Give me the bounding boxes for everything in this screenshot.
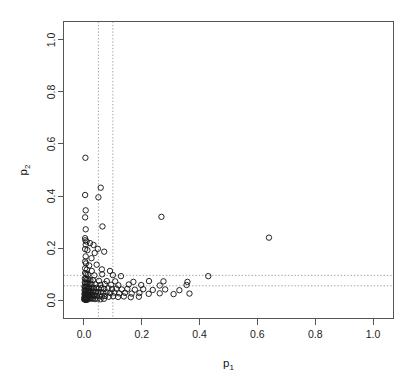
data-point (129, 291, 134, 296)
data-point (92, 250, 97, 255)
data-point (83, 208, 88, 213)
data-point (118, 273, 123, 278)
y-tick-label: 0.0 (46, 293, 58, 308)
y-tick-label: 0.8 (46, 84, 58, 99)
data-point (128, 295, 133, 300)
x-axis-title-subscript: 1 (229, 363, 234, 372)
data-point (83, 254, 88, 259)
data-point (171, 291, 176, 296)
data-point (266, 235, 271, 240)
data-point (136, 294, 141, 299)
data-point (187, 291, 192, 296)
data-point (82, 192, 87, 197)
x-tick-label: 0.6 (250, 328, 265, 340)
x-axis: 0.00.20.40.60.81.0 (77, 319, 381, 340)
y-axis-title: p2 (17, 164, 32, 175)
data-point (184, 282, 189, 287)
scatter-plot-figure: 0.00.20.40.60.81.0 0.00.20.40.60.81.0 p1… (0, 0, 420, 385)
data-points-group (82, 155, 272, 302)
data-point (146, 278, 151, 283)
data-point (102, 249, 107, 254)
data-point (83, 155, 88, 160)
plot-canvas: 0.00.20.40.60.81.0 0.00.20.40.60.81.0 p1… (0, 0, 420, 385)
data-point (119, 287, 124, 292)
data-point (159, 214, 164, 219)
y-axis-title-subscript: 2 (23, 164, 32, 169)
x-axis-title: p1 (223, 357, 234, 372)
y-axis: 0.00.20.40.60.81.0 (46, 32, 64, 307)
x-tick-label: 0.8 (308, 328, 323, 340)
x-tick-label: 0.4 (192, 328, 207, 340)
reference-lines-group (64, 22, 394, 319)
y-tick-label: 0.4 (46, 189, 58, 204)
data-point (89, 256, 94, 261)
data-point (146, 291, 151, 296)
data-point (162, 287, 167, 292)
x-tick-label: 0.2 (134, 328, 149, 340)
x-tick-label: 1.0 (366, 328, 381, 340)
y-tick-label: 1.0 (46, 32, 58, 47)
x-tick-label: 0.0 (77, 328, 92, 340)
data-point (121, 294, 126, 299)
data-point (94, 262, 99, 267)
data-point (206, 273, 211, 278)
data-point (100, 224, 105, 229)
data-point (177, 288, 182, 293)
data-point (82, 215, 87, 220)
y-tick-label: 0.2 (46, 241, 58, 256)
y-tick-label: 0.6 (46, 137, 58, 152)
data-point (157, 291, 162, 296)
data-point (83, 227, 88, 232)
